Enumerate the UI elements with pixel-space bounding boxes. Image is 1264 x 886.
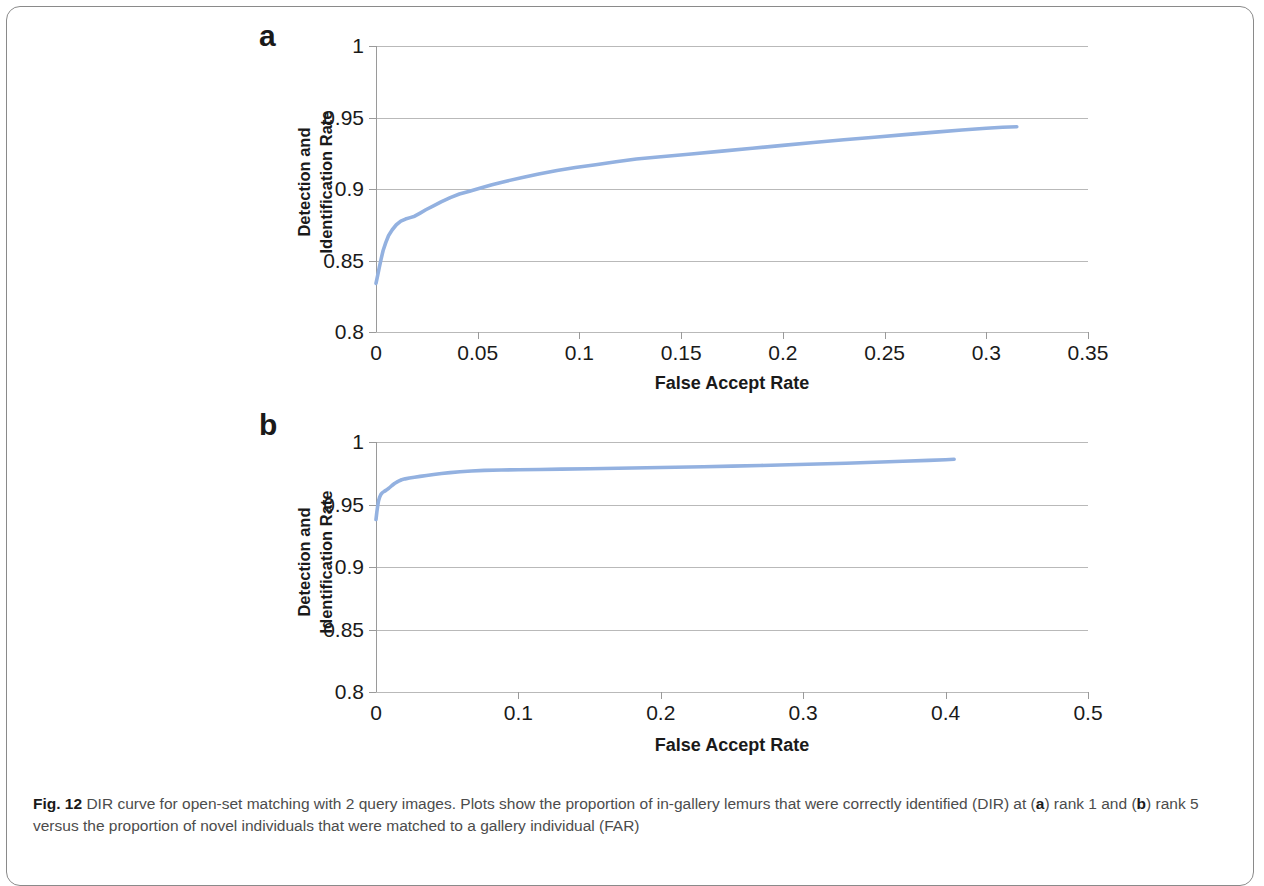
xtick-label: 0.4 bbox=[931, 701, 960, 725]
xtick-label: 0.2 bbox=[646, 701, 675, 725]
tick-x bbox=[803, 692, 804, 699]
tick-x bbox=[1088, 332, 1089, 339]
figure-frame: a Detection and Identification Rate 0.80… bbox=[6, 6, 1254, 886]
tick-y bbox=[369, 692, 376, 693]
tick-y bbox=[369, 630, 376, 631]
gridline-y bbox=[376, 692, 1088, 693]
tick-y bbox=[369, 261, 376, 262]
panel-a-xlabel: False Accept Rate bbox=[376, 373, 1088, 394]
tick-x bbox=[986, 332, 987, 339]
tick-x bbox=[783, 332, 784, 339]
tick-y bbox=[369, 442, 376, 443]
caption-text-2: ) rank 1 and ( bbox=[1044, 795, 1136, 812]
xtick-label: 0 bbox=[370, 701, 382, 725]
ytick-label: 0.8 bbox=[335, 320, 364, 344]
caption-figure-number: Fig. 12 bbox=[33, 795, 82, 812]
panel-a: a Detection and Identification Rate 0.80… bbox=[7, 7, 1255, 399]
xtick-label: 0.1 bbox=[504, 701, 533, 725]
xtick-label: 0.3 bbox=[789, 701, 818, 725]
xtick-label: 0.05 bbox=[457, 341, 498, 365]
panel-a-ylabel-line1: Detection and bbox=[295, 32, 314, 332]
tick-x bbox=[518, 692, 519, 699]
xtick-label: 0.2 bbox=[768, 341, 797, 365]
series-line bbox=[376, 127, 1017, 284]
series-line bbox=[376, 459, 954, 519]
caption-ref-b: b bbox=[1137, 795, 1146, 812]
tick-y bbox=[369, 118, 376, 119]
panel-a-ylabel-line2: Identification Rate bbox=[317, 32, 336, 332]
xtick-label: 0.15 bbox=[661, 341, 702, 365]
ytick-label: 1 bbox=[352, 430, 364, 454]
tick-y bbox=[369, 46, 376, 47]
panel-b-ylabel-line1: Detection and bbox=[295, 412, 314, 712]
caption-text-1: DIR curve for open-set matching with 2 q… bbox=[82, 795, 1036, 812]
xtick-label: 0.1 bbox=[565, 341, 594, 365]
tick-x bbox=[579, 332, 580, 339]
ytick-label: 0.8 bbox=[335, 680, 364, 704]
panel-b-letter: b bbox=[259, 408, 277, 442]
tick-x bbox=[946, 692, 947, 699]
ytick-label: 1 bbox=[352, 34, 364, 58]
xtick-label: 0.35 bbox=[1068, 341, 1109, 365]
ytick-label: 0.9 bbox=[335, 555, 364, 579]
figure-caption: Fig. 12 DIR curve for open-set matching … bbox=[33, 793, 1229, 837]
panel-b-plot-area: 0.80.850.90.95100.10.20.30.40.5 False Ac… bbox=[376, 442, 1088, 692]
ytick-label: 0.85 bbox=[323, 618, 364, 642]
xtick-label: 0.5 bbox=[1073, 701, 1102, 725]
panel-a-dir-curve bbox=[376, 46, 1088, 332]
tick-y bbox=[369, 332, 376, 333]
xtick-label: 0.3 bbox=[972, 341, 1001, 365]
tick-x bbox=[885, 332, 886, 339]
ytick-label: 0.9 bbox=[335, 177, 364, 201]
gridline-y bbox=[376, 332, 1088, 333]
tick-x bbox=[478, 332, 479, 339]
tick-y bbox=[369, 189, 376, 190]
tick-x bbox=[1088, 692, 1089, 699]
panel-b-dir-curve bbox=[376, 442, 1088, 692]
panel-b: b Detection and Identification Rate 0.80… bbox=[7, 392, 1255, 772]
ytick-label: 0.95 bbox=[323, 106, 364, 130]
ytick-label: 0.85 bbox=[323, 249, 364, 273]
panel-b-xlabel: False Accept Rate bbox=[376, 735, 1088, 756]
tick-y bbox=[369, 505, 376, 506]
ytick-label: 0.95 bbox=[323, 493, 364, 517]
tick-x bbox=[681, 332, 682, 339]
xtick-label: 0 bbox=[370, 341, 382, 365]
panel-a-plot-area: 0.80.850.90.95100.050.10.150.20.250.30.3… bbox=[376, 46, 1088, 332]
tick-y bbox=[369, 567, 376, 568]
panel-a-letter: a bbox=[259, 19, 275, 53]
panel-b-ylabel-line2: Identification Rate bbox=[317, 412, 336, 712]
xtick-label: 0.25 bbox=[864, 341, 905, 365]
tick-x bbox=[661, 692, 662, 699]
